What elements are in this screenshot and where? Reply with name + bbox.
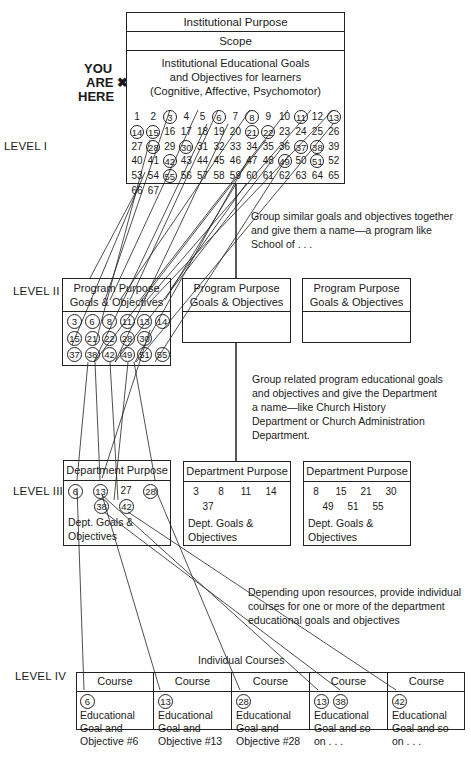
goal-number: 39 bbox=[326, 140, 342, 154]
goal-number: 52 bbox=[326, 154, 342, 168]
circled-goal-number: 55 bbox=[163, 169, 177, 183]
course-line2: Goal and so bbox=[392, 722, 461, 735]
goal-number: 20 bbox=[227, 125, 243, 139]
goal-number: 48 bbox=[260, 154, 276, 168]
department-box-3: Department Purpose 8152130495155 Dept. G… bbox=[303, 461, 411, 546]
department-3-title: Department Purpose bbox=[304, 462, 410, 482]
course-goal-circle: 42 bbox=[392, 694, 407, 709]
goal-number: 44 bbox=[195, 154, 211, 168]
goal-number: 10 bbox=[277, 110, 293, 124]
department-3-goals-label: Dept. Goals & Objectives bbox=[304, 516, 410, 544]
note1-line1: Group similar goals and objectives toget… bbox=[251, 209, 453, 223]
dept-goal-circle: 13 bbox=[93, 484, 108, 499]
goal-number: 36 bbox=[277, 140, 293, 154]
department-1-goals: 61327283842 bbox=[64, 481, 170, 515]
course-cell: Course 42 Educational Goal and so on . .… bbox=[387, 672, 465, 730]
note2-line4: Department or Church Administration bbox=[252, 414, 443, 428]
goal-number: 45 bbox=[211, 154, 227, 168]
dept1-goals-line2: Objectives bbox=[68, 529, 170, 543]
department-box-1: Department Purpose 61327283842 Dept. Goa… bbox=[63, 460, 171, 546]
course-line3: on . . . bbox=[392, 735, 461, 748]
course-body: 1338 Educational Goal and so on . . . bbox=[310, 692, 387, 750]
goal-number: 17 bbox=[178, 125, 194, 139]
goal-number: 1 bbox=[129, 110, 145, 124]
circled-goal-number: 13 bbox=[327, 110, 341, 124]
program-goal-circle: 28 bbox=[120, 331, 135, 346]
institutional-box: Institutional Purpose Scope Institutiona… bbox=[126, 12, 345, 184]
note-course-provision: Depending upon resources, provide indivi… bbox=[248, 585, 461, 627]
goal-number: 66 bbox=[129, 184, 145, 198]
dept-goal-number: 30 bbox=[383, 485, 399, 499]
note3-line2: courses for one or more of the departmen… bbox=[248, 599, 461, 613]
program-3-title: Program Purpose bbox=[303, 281, 410, 295]
course-tags: 28 bbox=[236, 694, 305, 709]
department-1-title: Department Purpose bbox=[64, 461, 170, 481]
goal-number: 40 bbox=[129, 154, 145, 168]
note2-line3: a name—like Church History bbox=[252, 400, 443, 414]
dept3-goals-line2: Objectives bbox=[308, 530, 410, 544]
note2-line2: and objectives and give the Department bbox=[252, 386, 443, 400]
note1-line2: and give them a name—a program like bbox=[251, 223, 453, 237]
note-department-grouping: Group related program educational goals … bbox=[252, 372, 443, 442]
circled-goal-number: 8 bbox=[245, 110, 259, 124]
program-1-goals: 3681113141521222830373842495155 bbox=[63, 312, 170, 364]
course-line3: on . . . bbox=[314, 735, 383, 748]
goal-number: 41 bbox=[145, 154, 161, 168]
dept-goal-number: 51 bbox=[345, 500, 361, 514]
course-line2: Goal and bbox=[80, 722, 150, 735]
program-goal-circle: 22 bbox=[102, 331, 117, 346]
department-2-goals: 38111437 bbox=[184, 482, 290, 516]
goal-number: 25 bbox=[309, 125, 325, 139]
goal-number: 29 bbox=[162, 140, 178, 154]
program-box-3: Program Purpose Goals & Objectives bbox=[302, 278, 411, 343]
dept-goal-circle: 38 bbox=[94, 499, 109, 514]
course-title: Course bbox=[232, 672, 309, 692]
course-title: Course bbox=[310, 672, 387, 692]
program-goal-circle: 14 bbox=[155, 314, 170, 329]
course-line2: Goal and bbox=[158, 722, 227, 735]
goal-number: 34 bbox=[244, 140, 260, 154]
circled-goal-number: 38 bbox=[310, 140, 324, 154]
course-line1: Educational bbox=[236, 709, 305, 722]
goal-number: 4 bbox=[178, 110, 194, 124]
goal-number: 50 bbox=[293, 154, 309, 168]
goal-number: 18 bbox=[195, 125, 211, 139]
dept-goal-number: 8 bbox=[308, 485, 324, 499]
course-body: 28 Educational Goal and Objective #28 bbox=[232, 692, 309, 750]
goal-number: 53 bbox=[129, 169, 145, 183]
course-line1: Educational bbox=[314, 709, 383, 722]
note2-line1: Group related program educational goals bbox=[252, 372, 443, 386]
program-goal-circle: 15 bbox=[67, 331, 82, 346]
dept-goal-number: 55 bbox=[370, 500, 386, 514]
department-1-goals-label: Dept. Goals & Objectives bbox=[64, 515, 170, 543]
you-are-here-line2: ARE ✖ bbox=[78, 76, 130, 90]
scope: Scope bbox=[127, 32, 344, 51]
program-3-subtitle: Goals & Objectives bbox=[303, 295, 410, 309]
circled-goal-number: 49 bbox=[278, 154, 292, 168]
program-goal-circle: 38 bbox=[85, 347, 100, 362]
program-goal-circle: 8 bbox=[102, 314, 117, 329]
goal-number: 47 bbox=[244, 154, 260, 168]
circled-goal-number: 15 bbox=[146, 125, 160, 139]
goal-number: 62 bbox=[277, 169, 293, 183]
dept-goal-number: 8 bbox=[213, 485, 229, 499]
program-box-1: Program Purpose Goals & Objectives 36811… bbox=[62, 278, 171, 366]
goal-number: 19 bbox=[211, 125, 227, 139]
goal-number: 57 bbox=[195, 169, 211, 183]
circled-goal-number: 42 bbox=[163, 154, 177, 168]
course-title: Course bbox=[76, 672, 154, 692]
dept-goal-number: 3 bbox=[188, 485, 204, 499]
circled-goal-number: 37 bbox=[294, 140, 308, 154]
individual-courses-caption: Individual Courses bbox=[198, 654, 284, 666]
you-are-here-line3: HERE bbox=[78, 90, 130, 104]
course-line3: Objective #28 bbox=[236, 735, 305, 748]
goal-number: 64 bbox=[309, 169, 325, 183]
level-1-label: LEVEL I bbox=[4, 140, 47, 152]
goal-number: 61 bbox=[260, 169, 276, 183]
goal-number: 23 bbox=[277, 125, 293, 139]
you-are-here-line1: YOU bbox=[78, 62, 130, 76]
dept-goal-number: 21 bbox=[358, 485, 374, 499]
institutional-goals-text: Institutional Educational Goals and Obje… bbox=[127, 51, 344, 98]
goal-number: 27 bbox=[129, 140, 145, 154]
course-body: 6 Educational Goal and Objective #6 bbox=[76, 692, 154, 750]
